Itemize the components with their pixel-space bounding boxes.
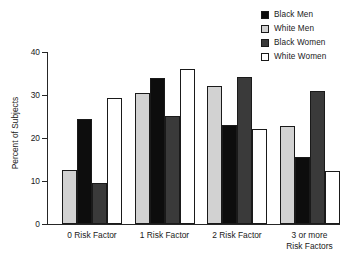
bar-white-women-group-0 bbox=[107, 98, 122, 224]
x-axis-label-line: 3 or more bbox=[267, 230, 353, 241]
bar-black-men-group-2 bbox=[222, 125, 237, 224]
bar-white-men-group-1 bbox=[135, 93, 150, 224]
bars-layer bbox=[0, 0, 353, 268]
bar-black-women-group-3 bbox=[310, 91, 325, 224]
bar-white-women-group-2 bbox=[252, 129, 267, 224]
bar-black-women-group-2 bbox=[237, 77, 252, 224]
bar-white-men-group-2 bbox=[207, 86, 222, 224]
bar-black-men-group-3 bbox=[295, 157, 310, 224]
bar-black-men-group-0 bbox=[77, 119, 92, 224]
x-axis-label-line: Risk Factors bbox=[267, 241, 353, 252]
bar-white-women-group-3 bbox=[325, 171, 340, 224]
bar-black-women-group-1 bbox=[165, 116, 180, 224]
x-axis-label-group-3: 3 or moreRisk Factors bbox=[267, 230, 353, 252]
bar-black-men-group-1 bbox=[150, 78, 165, 224]
bar-chart-figure: Black Men White Men Black Women White Wo… bbox=[0, 0, 353, 268]
bar-white-men-group-0 bbox=[62, 170, 77, 224]
bar-black-women-group-0 bbox=[92, 183, 107, 224]
bar-white-women-group-1 bbox=[180, 69, 195, 224]
bar-white-men-group-3 bbox=[280, 126, 295, 224]
